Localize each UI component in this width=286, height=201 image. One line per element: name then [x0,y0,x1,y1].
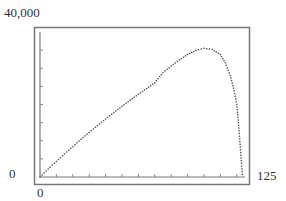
data-point [68,149,69,150]
data-point [214,50,215,51]
data-point [239,133,240,134]
data-point [150,85,151,86]
data-point [242,174,243,175]
data-point [232,85,233,86]
data-point [91,130,92,131]
data-point [148,86,149,87]
data-point [238,130,239,131]
data-point [238,119,239,120]
data-point [240,155,241,156]
outer-frame [35,28,250,185]
data-point [119,107,120,108]
data-point [95,127,96,128]
data-point [203,48,204,49]
data-point [238,125,239,126]
data-point [58,159,59,160]
data-point [107,117,108,118]
data-point [235,98,236,99]
data-point [175,62,176,63]
data-point [113,112,114,113]
data-point [198,49,199,50]
data-point [161,74,162,75]
data-point [229,72,230,73]
data-point [159,76,160,77]
data-point [189,53,190,54]
data-point [146,88,147,89]
data-point [230,77,231,78]
data-point [39,176,40,177]
data-point [140,92,141,93]
data-point [43,172,44,173]
data-point [232,82,233,83]
data-point [234,96,235,97]
data-point [239,136,240,137]
data-point [125,103,126,104]
data-point [236,101,237,102]
data-point [177,61,178,62]
data-point [236,106,237,107]
data-point [220,54,221,55]
data-point [99,123,100,124]
data-point [227,67,228,68]
data-point [70,148,71,149]
data-point [231,80,232,81]
data-point [166,69,167,70]
data-point [164,70,165,71]
data-point [233,90,234,91]
data-point [241,163,242,164]
data-point [41,174,42,175]
data-point [209,48,210,49]
data-point [74,144,75,145]
data-point [237,109,238,110]
data-point [195,50,196,51]
data-point [115,110,116,111]
data-point [64,153,65,154]
data-point [241,168,242,169]
data-point [237,114,238,115]
data-point [156,80,157,81]
data-point [132,98,133,99]
data-point [50,166,51,167]
data-point [240,157,241,158]
data-point [80,139,81,140]
data-point [239,144,240,145]
data-point [191,52,192,53]
data-point [240,146,241,147]
data-point [187,54,188,55]
data-point [136,95,137,96]
data-point [127,101,128,102]
data-point [154,82,155,83]
data-point [171,65,172,66]
data-point [206,48,207,49]
data-point [101,122,102,123]
data-point [239,138,240,139]
data-point [183,56,184,57]
data-point [238,122,239,123]
data-point [48,168,49,169]
data-point [82,137,83,138]
data-point [201,48,202,49]
data-point [86,133,87,134]
axis-ticks [40,50,237,177]
data-point [226,65,227,66]
data-point [233,87,234,88]
axes [40,32,245,177]
data-point [138,94,139,95]
data-point [111,113,112,114]
data-point [130,99,131,100]
data-point [54,163,55,164]
data-point [103,120,104,121]
data-point [240,149,241,150]
data-point [193,51,194,52]
data-point [221,56,222,57]
data-series [39,48,243,178]
data-point [62,155,63,156]
data-point [52,165,53,166]
data-point [236,104,237,105]
data-point [105,118,106,119]
data-point [84,135,85,136]
data-point [237,112,238,113]
data-point [238,127,239,128]
data-point [216,51,217,52]
data-point [218,53,219,54]
